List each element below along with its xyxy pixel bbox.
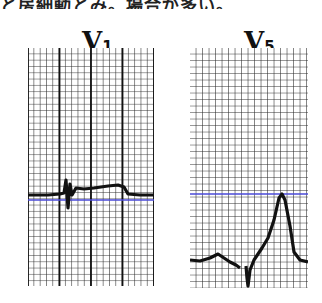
ecg-grid-v5	[190, 48, 308, 292]
ecg-strip-v1	[28, 48, 154, 290]
ecg-grid-v1	[28, 48, 154, 290]
caption-text: と房細動とみ。場合が多い。	[0, 0, 322, 9]
ecg-strip-v5	[190, 48, 308, 292]
